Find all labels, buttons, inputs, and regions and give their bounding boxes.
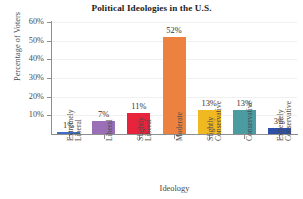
x-category-label-line: Slightly: [137, 117, 144, 141]
y-tick-mark: [47, 78, 51, 79]
x-category-label-line: Conservative: [285, 101, 292, 141]
bar-chart: Political Ideologies in the U.S. Percent…: [0, 0, 303, 199]
x-category-label-line: Extremely: [67, 109, 74, 141]
x-category-label-line: Moderate: [176, 112, 183, 141]
y-axis-title: Percentage of Voters: [13, 0, 22, 102]
x-category-label-line: Liberal: [75, 119, 82, 141]
x-category-label-line: Conservative: [215, 101, 222, 141]
bar-value-label: 11%: [119, 102, 159, 111]
y-tick-label: 10%: [10, 110, 44, 119]
bar-value-label: 7%: [84, 110, 124, 119]
y-tick-mark: [47, 115, 51, 116]
gridline: [51, 22, 297, 23]
y-tick-label: 60%: [10, 17, 44, 26]
x-category-label: Conservative: [240, 141, 248, 155]
y-tick-mark: [47, 41, 51, 42]
y-axis-line: [51, 21, 52, 135]
bar-value-label: 13%: [189, 99, 229, 108]
bar-value-label: 52%: [154, 26, 194, 35]
x-category-label: Liberal: [100, 141, 108, 155]
x-category-label: Moderate: [170, 141, 178, 155]
x-category-label: SlightlyLiberal: [131, 141, 147, 155]
x-category-label: SlightlyConservative: [201, 141, 217, 155]
y-tick-label: 20%: [10, 92, 44, 101]
y-tick-label: 30%: [10, 73, 44, 82]
y-tick-mark: [47, 22, 51, 23]
x-category-label-line: Liberal: [145, 119, 152, 141]
chart-title: Political Ideologies in the U.S.: [0, 3, 303, 13]
y-tick-label: 40%: [10, 54, 44, 63]
x-category-label-line: Liberal: [106, 119, 113, 141]
x-category-label: ExtremelyLiberal: [61, 141, 77, 155]
x-category-label: ExtremelyConservative: [271, 141, 287, 155]
x-axis-title: Ideology: [51, 184, 298, 193]
y-tick-mark: [47, 97, 51, 98]
y-tick-mark: [47, 59, 51, 60]
x-category-label-line: Conservative: [246, 101, 253, 141]
y-tick-label: 50%: [10, 36, 44, 45]
